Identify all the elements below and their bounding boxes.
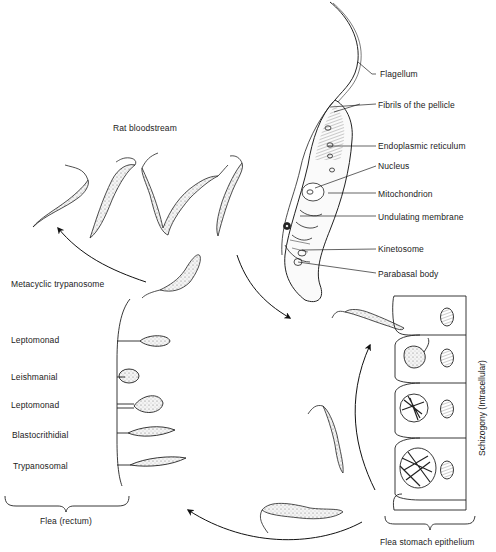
label-rat-bloodstream: Rat bloodstream bbox=[113, 123, 177, 133]
label-schizogony: Schizogony (Intracellular) bbox=[477, 360, 487, 456]
label-fibrils: Fibrils of the pellicle bbox=[378, 100, 455, 110]
label-undulating-membrane: Undulating membrane bbox=[378, 212, 464, 222]
label-rectal-form-2: Leishmanial bbox=[11, 372, 57, 382]
label-parabasal-body: Parabasal body bbox=[378, 269, 438, 279]
label-rectal-form-3: Leptomonad bbox=[11, 400, 59, 410]
brace-flea-rectum bbox=[5, 496, 129, 512]
label-rectal-form-1: Leptomonad bbox=[11, 335, 59, 345]
arrow-to-bloodstream bbox=[58, 228, 146, 282]
cycle-arrows bbox=[58, 228, 375, 540]
arrow-to-crithidial bbox=[355, 345, 375, 490]
metacyclic-trypanosome bbox=[142, 255, 200, 298]
flea-rectum bbox=[117, 299, 186, 486]
stomach-trypanosomes bbox=[260, 309, 404, 533]
brace-flea-stomach bbox=[385, 516, 475, 530]
label-metacyclic-trypanosome: Metacyclic trypanosome bbox=[11, 279, 104, 289]
label-rectal-form-5: Trypanosomal bbox=[13, 461, 68, 471]
label-flagellum: Flagellum bbox=[380, 69, 418, 79]
label-flea-rectum: Flea (rectum) bbox=[40, 516, 92, 526]
trypanosome-life-cycle-diagram: Flagellum Fibrils of the pellicle Endopl… bbox=[0, 0, 496, 552]
label-rectal-form-4: Blastocrithidial bbox=[12, 430, 68, 440]
label-nucleus: Nucleus bbox=[378, 161, 409, 171]
label-mitochondrion: Mitochondrion bbox=[378, 189, 433, 199]
label-endoplasmic-reticulum: Endoplasmic reticulum bbox=[378, 141, 466, 151]
detailed-trypanosome bbox=[282, 2, 361, 302]
label-flea-stomach-epithelium: Flea stomach epithelium bbox=[380, 537, 474, 547]
arrow-to-flea-stomach bbox=[237, 255, 290, 318]
label-kinetosome: Kinetosome bbox=[378, 244, 424, 254]
bloodstream-trypanosomes bbox=[33, 153, 243, 238]
